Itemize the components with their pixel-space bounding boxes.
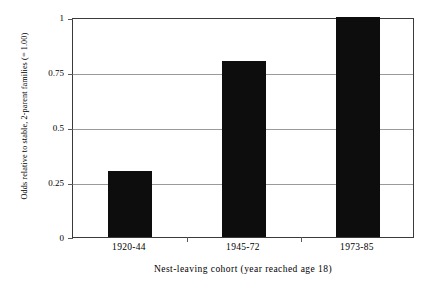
y-tick-mark-0.25 (68, 184, 73, 185)
x-tick-label-1920-44: 1920-44 (112, 243, 146, 253)
y-tick-label-0.5: 0.5 (30, 124, 68, 133)
bar-1920-44 (108, 171, 152, 237)
x-tick-mark-1 (187, 237, 188, 242)
y-tick-label-0: 0 (30, 234, 68, 243)
y-tick-mark-0 (68, 238, 73, 239)
y-tick-label-0.25: 0.25 (30, 179, 68, 188)
x-axis-title: Nest-leaving cohort (year reached age 18… (72, 265, 414, 275)
y-tick-label-0.75: 0.75 (30, 69, 68, 78)
bar-1945-72 (222, 61, 266, 237)
plot-area (72, 18, 414, 238)
y-axis-tick-labels: 00.250.50.751 (30, 18, 68, 238)
y-axis-title: Odds relative to stable, 2-parent famili… (21, 6, 29, 226)
x-tick-mark-2 (301, 237, 302, 242)
bar-1973-85 (336, 17, 380, 237)
y-tick-label-1: 1 (30, 14, 68, 23)
y-tick-mark-0.75 (68, 74, 73, 75)
y-tick-mark-1 (68, 19, 73, 20)
x-axis-tick-labels: 1920-441945-721973-85 (72, 243, 414, 259)
y-tick-mark-0.5 (68, 129, 73, 130)
x-tick-label-1945-72: 1945-72 (226, 243, 260, 253)
bar-chart-figure: Odds relative to stable, 2-parent famili… (0, 0, 432, 289)
x-tick-label-1973-85: 1973-85 (340, 243, 374, 253)
